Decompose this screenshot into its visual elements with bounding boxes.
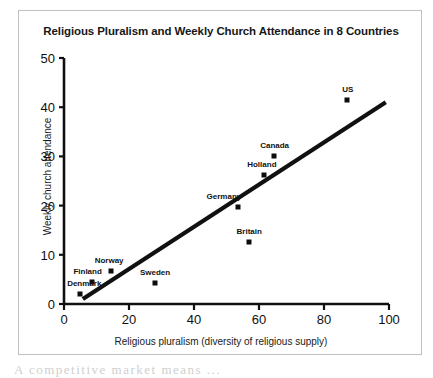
- data-point-label: Canada: [260, 141, 289, 150]
- data-point-marker: [78, 292, 83, 297]
- data-point-marker: [235, 204, 240, 209]
- y-tick-label: 0: [48, 297, 55, 312]
- x-tick-label: 0: [60, 312, 67, 327]
- x-tick-label: 20: [122, 312, 136, 327]
- trendline: [83, 102, 386, 299]
- page-bottom-text: A competitive market means ...: [14, 362, 221, 378]
- data-point-label: Finland: [73, 267, 101, 276]
- trendline-segment: [83, 102, 386, 299]
- data-point-marker: [109, 268, 114, 273]
- y-axis-title: Weekly church attendance: [42, 87, 53, 267]
- data-point-marker: [271, 154, 276, 159]
- data-point-marker: [344, 97, 349, 102]
- data-point-label: Norway: [95, 256, 124, 265]
- y-tick-label: 50: [41, 51, 55, 66]
- data-point-marker: [153, 281, 158, 286]
- x-tick-label: 100: [378, 312, 400, 327]
- chart-frame: Religious Pluralism and Weekly Church At…: [18, 10, 422, 355]
- data-point-label: US: [342, 85, 353, 94]
- plot-area: [19, 11, 423, 356]
- data-point-label: Britain: [237, 227, 262, 236]
- data-point-marker: [261, 173, 266, 178]
- data-point-marker: [247, 239, 252, 244]
- data-point-label: Denmark: [67, 279, 101, 288]
- x-tick-label: 60: [252, 312, 266, 327]
- data-point-label: Germany: [207, 192, 242, 201]
- data-point-marker: [89, 279, 94, 284]
- data-point-label: Sweden: [140, 268, 170, 277]
- data-point-label: Holland: [247, 160, 276, 169]
- x-tick-label: 80: [317, 312, 331, 327]
- x-axis-title: Religious pluralism (diversity of religi…: [19, 336, 423, 347]
- x-tick-label: 40: [187, 312, 201, 327]
